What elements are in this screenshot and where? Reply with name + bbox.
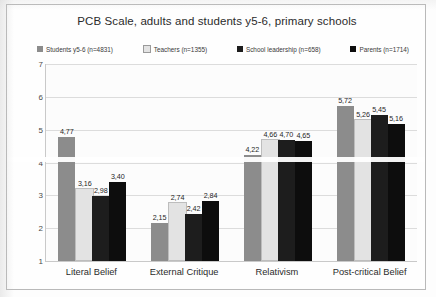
legend-item[interactable]: Students y5-6 (n=4831) bbox=[37, 46, 113, 53]
y-axis-tick-label: 4 bbox=[25, 158, 43, 167]
y-axis: 1234567 bbox=[25, 64, 43, 262]
bar-group: 4,224,664,704,65 bbox=[244, 64, 312, 261]
bar-value-label: 4,66 bbox=[263, 130, 277, 139]
y-axis-tick-label: 3 bbox=[25, 191, 43, 200]
bar-value-label: 4,65 bbox=[296, 131, 310, 140]
plot-area: 4,773,162,983,402,152,742,422,844,224,66… bbox=[45, 64, 417, 262]
x-axis-category-label: Relativism bbox=[255, 267, 298, 277]
bar-value-label: 4,77 bbox=[60, 127, 74, 136]
legend-label: Teachers (n=1355) bbox=[154, 46, 207, 53]
bar[interactable]: 5,16 bbox=[388, 124, 405, 261]
bar[interactable]: 4,70 bbox=[278, 140, 295, 261]
bar-value-label: 2,15 bbox=[153, 213, 167, 222]
y-axis-tick-label: 7 bbox=[25, 60, 43, 69]
bar[interactable]: 2,98 bbox=[92, 196, 109, 261]
legend-item[interactable]: Parents (n=1714) bbox=[350, 46, 409, 53]
x-axis-category-label: Literal Belief bbox=[66, 267, 117, 277]
legend-swatch-icon bbox=[37, 46, 43, 52]
bar-value-label: 2,84 bbox=[204, 191, 218, 200]
bar[interactable]: 2,84 bbox=[202, 201, 219, 261]
y-axis-tick-label: 2 bbox=[25, 224, 43, 233]
legend-swatch-icon bbox=[143, 45, 151, 53]
y-axis-tick-label: 1 bbox=[25, 257, 43, 266]
bar-value-label: 2,42 bbox=[187, 204, 201, 213]
bar[interactable]: 5,72 bbox=[337, 106, 354, 261]
chart-figure: PCB Scale, adults and students y5-6, pri… bbox=[0, 0, 436, 297]
bar-value-label: 5,26 bbox=[356, 110, 370, 119]
chart-title: PCB Scale, adults and students y5-6, pri… bbox=[7, 15, 426, 27]
bar[interactable]: 4,77 bbox=[58, 137, 75, 261]
x-axis: Literal BeliefExternal CritiqueRelativis… bbox=[45, 267, 417, 285]
legend-item[interactable]: School leadership (n=658) bbox=[237, 46, 321, 53]
legend-label: School leadership (n=658) bbox=[246, 46, 321, 53]
bar-value-label: 2,74 bbox=[171, 193, 185, 202]
bar[interactable]: 5,45 bbox=[371, 115, 388, 261]
legend-label: Parents (n=1714) bbox=[359, 46, 409, 53]
y-axis-tick-label: 6 bbox=[25, 92, 43, 101]
bar[interactable]: 2,42 bbox=[185, 214, 202, 261]
legend-swatch-icon bbox=[237, 46, 243, 52]
bar-value-label: 5,16 bbox=[389, 114, 403, 123]
bar-group: 2,152,742,422,84 bbox=[151, 64, 219, 261]
bar-group: 5,725,265,455,16 bbox=[337, 64, 405, 261]
x-axis-category-label: Post-critical Belief bbox=[333, 267, 407, 277]
chart-legend: Students y5-6 (n=4831)Teachers (n=1355)S… bbox=[37, 45, 409, 53]
bar[interactable]: 2,15 bbox=[151, 223, 168, 261]
bar-value-label: 5,45 bbox=[372, 105, 386, 114]
bar-value-label: 4,70 bbox=[279, 130, 293, 139]
x-axis-category-label: External Critique bbox=[150, 267, 219, 277]
legend-label: Students y5-6 (n=4831) bbox=[46, 46, 113, 53]
chart-frame: PCB Scale, adults and students y5-6, pri… bbox=[6, 4, 426, 290]
bar-value-label: 3,16 bbox=[78, 179, 92, 188]
bar-value-label: 3,40 bbox=[111, 172, 125, 181]
bar-group: 4,773,162,983,40 bbox=[58, 64, 126, 261]
bar-value-label: 2,98 bbox=[94, 186, 108, 195]
bar[interactable]: 4,65 bbox=[295, 141, 312, 261]
y-axis-tick-label: 5 bbox=[25, 125, 43, 134]
legend-swatch-icon bbox=[350, 46, 356, 52]
bar[interactable]: 3,40 bbox=[109, 182, 126, 261]
bar-value-label: 5,72 bbox=[338, 96, 352, 105]
legend-item[interactable]: Teachers (n=1355) bbox=[143, 45, 207, 53]
bar[interactable]: 4,22 bbox=[244, 155, 261, 261]
bar-value-label: 4,22 bbox=[245, 145, 259, 154]
